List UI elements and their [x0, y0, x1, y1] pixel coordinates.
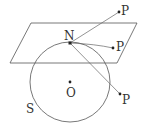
- point-p3-marker: [119, 93, 122, 96]
- label-n: N: [64, 29, 75, 43]
- point-o-marker: [69, 81, 72, 84]
- label-p3: P: [122, 93, 130, 107]
- label-p1: P: [121, 4, 129, 18]
- ray-n-p1: [70, 12, 119, 43]
- sphere-plane-diagram: N O S P P P: [0, 0, 144, 133]
- point-p2-marker: [112, 47, 115, 50]
- label-s: S: [26, 102, 34, 116]
- label-p2: P: [116, 40, 124, 54]
- label-o: O: [66, 86, 76, 100]
- point-p1-marker: [118, 11, 121, 14]
- diagram-canvas: N O S P P P: [0, 0, 144, 133]
- curve-n-p2: [70, 43, 113, 48]
